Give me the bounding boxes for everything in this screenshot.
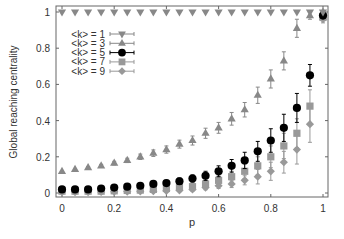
legend: <k> = 1<k> = 3<k> = 5<k> = 7<k> = 9 <box>71 29 134 77</box>
y-tick-label: 0.8 <box>36 43 50 54</box>
x-tick-label: 0.6 <box>212 203 226 214</box>
y-tick-label: 0.2 <box>36 152 50 163</box>
x-tick-label: 0.2 <box>107 203 121 214</box>
chart: 00.20.40.60.8100.20.40.60.81 <k> = 1<k> … <box>0 0 344 239</box>
y-tick-label: 0 <box>44 188 50 199</box>
series-0 <box>58 9 327 16</box>
x-tick-label: 0.8 <box>264 203 278 214</box>
x-tick-label: 0 <box>59 203 65 214</box>
x-tick-label: 0.4 <box>159 203 173 214</box>
y-tick-label: 1 <box>44 7 50 18</box>
legend-label: <k> = 9 <box>71 66 105 77</box>
y-tick-label: 0.4 <box>36 116 50 127</box>
y-tick-label: 0.6 <box>36 79 50 90</box>
x-axis-label: p <box>189 216 195 228</box>
x-tick-label: 1 <box>320 203 326 214</box>
y-axis-label: Global reaching centrality <box>8 46 19 159</box>
